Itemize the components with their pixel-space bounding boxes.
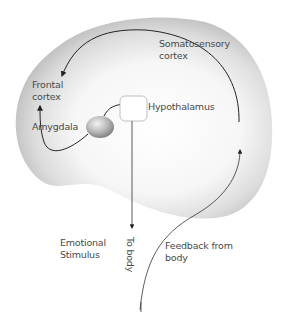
emotion-pathway-diagram: Frontal cortex Somatosensory cortex Amyg… — [0, 0, 284, 315]
amygdala-label: Amygdala — [32, 121, 78, 133]
hypothalamus-node — [120, 96, 147, 121]
feedback-from-body-label: Feedback from body — [165, 240, 233, 264]
amygdala-node — [86, 116, 114, 138]
to-body-label: To body — [125, 237, 136, 272]
somatosensory-cortex-label: Somatosensory cortex — [159, 38, 230, 62]
diagram-canvas — [0, 0, 284, 315]
emotional-stimulus-label: Emotional Stimulus — [60, 237, 106, 261]
frontal-cortex-label: Frontal cortex — [32, 79, 63, 103]
hypothalamus-label: Hypothalamus — [148, 101, 214, 113]
